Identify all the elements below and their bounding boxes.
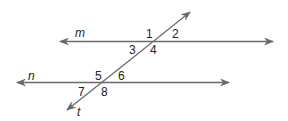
parallel-lines-diagram bbox=[0, 0, 288, 121]
angle-3: 3 bbox=[129, 44, 136, 56]
transversal-t bbox=[130, 12, 190, 60]
angle-1: 1 bbox=[146, 28, 153, 40]
label-t: t bbox=[77, 106, 80, 118]
label-n: n bbox=[28, 70, 35, 82]
transversal-t-lower bbox=[67, 60, 130, 110]
angle-2: 2 bbox=[172, 28, 179, 40]
angle-8: 8 bbox=[101, 86, 108, 98]
angle-4: 4 bbox=[150, 44, 157, 56]
angle-5: 5 bbox=[95, 70, 102, 82]
angle-7: 7 bbox=[78, 86, 85, 98]
angle-6: 6 bbox=[118, 70, 125, 82]
label-m: m bbox=[75, 27, 85, 39]
